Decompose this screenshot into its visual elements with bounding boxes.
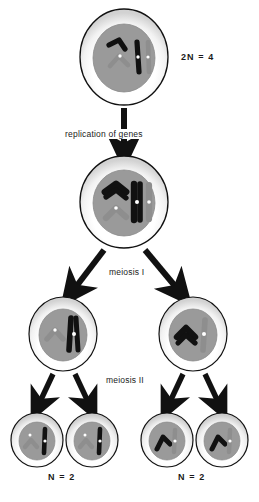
meiosis-two-arrow-2 bbox=[75, 374, 90, 406]
meiosis-two-arrow-1 bbox=[38, 374, 53, 406]
centromere bbox=[72, 332, 76, 336]
centromere bbox=[135, 200, 139, 204]
gamete-cell-3 bbox=[141, 413, 193, 467]
parent-cell bbox=[80, 9, 168, 105]
meiosis-one-arrow-right bbox=[145, 250, 180, 292]
meiosis-diagram: 2N = 4 replication of genes meiosis I me… bbox=[0, 0, 259, 502]
meiosis-one-arrow-left bbox=[72, 250, 104, 292]
centromere bbox=[147, 200, 151, 204]
centromere bbox=[146, 55, 149, 58]
stage-label-replication: replication of genes bbox=[63, 129, 145, 139]
centromere bbox=[29, 434, 32, 437]
chromosome-dark-replicated bbox=[69, 318, 71, 350]
centromere bbox=[114, 206, 118, 210]
gamete-cell-2 bbox=[66, 413, 118, 467]
daughter-cell-left bbox=[29, 297, 97, 371]
stage-label-meiosis-two: meiosis II bbox=[104, 375, 146, 385]
centromere bbox=[118, 54, 121, 57]
meiosis-two-arrow-4 bbox=[205, 374, 220, 406]
replicated-cell bbox=[80, 156, 168, 248]
centromere bbox=[84, 434, 87, 437]
gamete-cell-1 bbox=[11, 413, 63, 467]
centromere bbox=[53, 328, 56, 331]
diagram-canvas bbox=[0, 0, 259, 502]
centromere bbox=[136, 55, 139, 58]
centromere bbox=[98, 439, 101, 442]
centromere bbox=[202, 332, 206, 336]
stage-label-meiosis-one: meiosis I bbox=[107, 267, 146, 277]
chromosome-dark-replicated bbox=[76, 318, 78, 350]
daughter-cell-right bbox=[159, 297, 227, 371]
centromere bbox=[228, 439, 231, 442]
ploidy-label-daughter-right: N = 2 bbox=[178, 472, 205, 482]
gamete-cell-4 bbox=[196, 413, 248, 467]
ploidy-label-parent: 2N = 4 bbox=[181, 52, 214, 62]
centromere bbox=[43, 439, 46, 442]
meiosis-two-arrow-3 bbox=[168, 374, 183, 406]
centromere bbox=[173, 439, 176, 442]
ploidy-label-daughter-left: N = 2 bbox=[48, 472, 75, 482]
